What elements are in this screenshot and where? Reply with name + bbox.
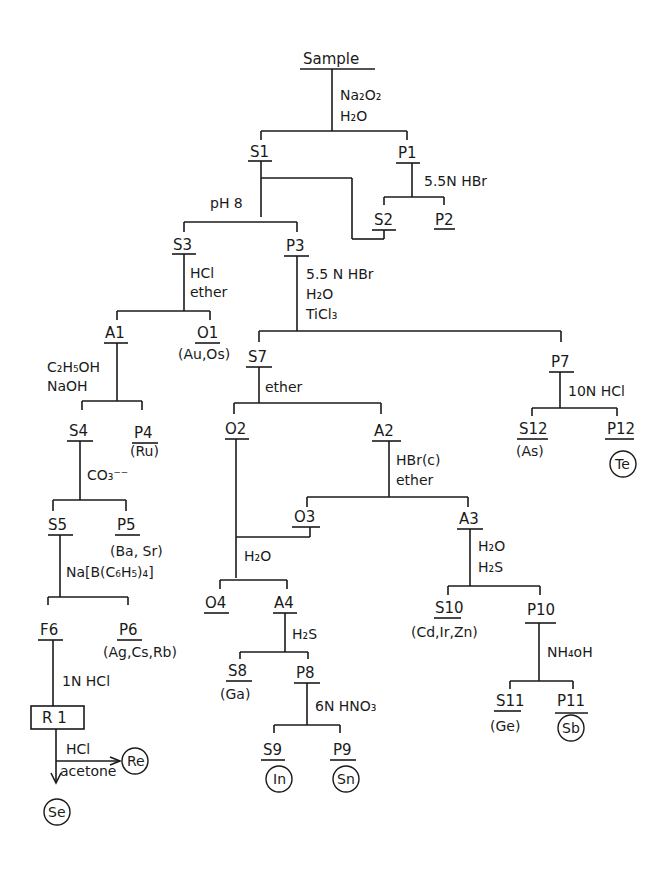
node-p8: P8 [296, 664, 315, 682]
node-s10: S10 [435, 599, 464, 617]
element-se: Se [48, 804, 66, 820]
p4-elements: (Ru) [130, 443, 159, 459]
reagent-p8: 6N HNO₃ [315, 698, 376, 714]
node-s4: S4 [69, 422, 88, 440]
node-a3: A3 [459, 510, 479, 528]
element-in: In [273, 771, 286, 787]
node-o1: O1 [197, 324, 218, 342]
s12-elements: (As) [516, 443, 544, 459]
element-sb: Sb [562, 720, 580, 736]
node-o2: O2 [225, 420, 246, 438]
reagent-s3-1: HCl [190, 265, 214, 281]
reagent-s3-2: ether [190, 284, 228, 300]
reagent-s1: pH 8 [210, 195, 243, 211]
node-p4: P4 [134, 424, 153, 442]
reagent-o3: H₂O [244, 548, 271, 564]
node-s3: S3 [173, 236, 192, 254]
reagent-r1-2: acetone [60, 763, 116, 779]
element-re: Re [127, 753, 145, 769]
reagent-a2-1: HBr(c) [396, 452, 441, 468]
node-p2: P2 [435, 211, 454, 229]
reagent-s7: ether [265, 379, 303, 395]
element-te: Te [614, 456, 630, 472]
node-p5: P5 [117, 516, 136, 534]
reagent-p1: 5.5N HBr [424, 173, 487, 189]
node-a1: A1 [105, 324, 125, 342]
node-p7: P7 [551, 353, 570, 371]
node-s7: S7 [248, 348, 267, 366]
reagent-p3-3: TiCl₃ [305, 306, 337, 322]
node-s12: S12 [519, 420, 548, 438]
reagent-a1-1: C₂H₅OH [47, 359, 100, 375]
node-s11: S11 [496, 692, 525, 710]
node-p3: P3 [286, 237, 305, 255]
reagent-sample-1: Na₂O₂ [340, 87, 381, 103]
o1-elements: (Au,Os) [178, 346, 230, 362]
reagent-a2-2: ether [396, 472, 434, 488]
s10-elements: (Cd,Ir,Zn) [411, 624, 478, 640]
reagent-r1-1: HCl [66, 741, 90, 757]
node-s8: S8 [228, 662, 247, 680]
reagent-f6: 1N HCl [62, 673, 110, 689]
node-p1: P1 [398, 144, 417, 162]
node-o3: O3 [294, 508, 315, 526]
s8-elements: (Ga) [220, 686, 250, 702]
reagent-s4: CO₃⁻⁻ [87, 467, 128, 483]
reagent-a1-2: NaOH [47, 378, 88, 394]
node-s5: S5 [48, 516, 67, 534]
p5-elements: (Ba, Sr) [110, 543, 163, 559]
node-f6: F6 [40, 621, 58, 639]
reagent-a4: H₂S [292, 626, 317, 642]
node-a4: A4 [274, 594, 294, 612]
node-r1: R 1 [42, 709, 67, 727]
node-a2: A2 [374, 422, 394, 440]
reagent-a3-1: H₂O [478, 538, 505, 554]
node-s2: S2 [374, 211, 393, 229]
node-o4: O4 [205, 594, 226, 612]
node-p10: P10 [527, 601, 555, 619]
reagent-a3-2: H₂S [478, 559, 503, 575]
reagent-p3-1: 5.5 N HBr [306, 266, 374, 282]
s11-elements: (Ge) [490, 718, 520, 734]
reagent-s5: Na[B(C₆H₅)₄] [66, 564, 154, 580]
reagent-sample-2: H₂O [340, 108, 367, 124]
node-s1: S1 [250, 143, 269, 161]
node-p12: P12 [607, 420, 635, 438]
reagent-p7: 10N HCl [568, 383, 625, 399]
node-sample: Sample [303, 50, 359, 68]
node-p11: P11 [557, 692, 585, 710]
node-s9: S9 [263, 741, 282, 759]
node-p6: P6 [119, 621, 138, 639]
node-p9: P9 [333, 741, 352, 759]
element-sn: Sn [337, 771, 355, 787]
reagent-p10: NH₄oH [547, 644, 593, 660]
separation-flowchart: Sample S1 P1 S2 P2 S3 P3 A1 O1 (Au,Os) S… [0, 0, 672, 871]
p6-elements: (Ag,Cs,Rb) [103, 644, 177, 660]
reagent-p3-2: H₂O [306, 286, 333, 302]
